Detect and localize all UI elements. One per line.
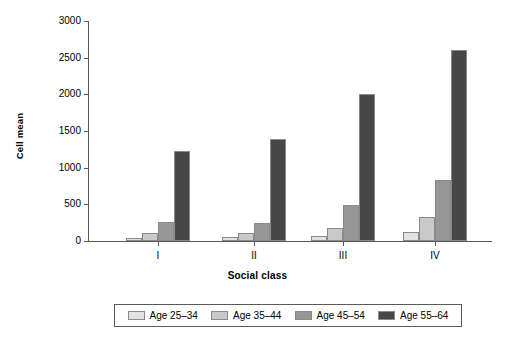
bar <box>403 232 419 241</box>
x-tick-label: II <box>234 250 274 261</box>
y-tick-label: 3000 <box>41 16 81 26</box>
legend-swatch <box>211 311 228 320</box>
bar <box>419 217 435 241</box>
legend-entry: Age 35–44 <box>211 311 281 321</box>
legend-label: Age 35–44 <box>233 311 281 321</box>
x-tick-mark <box>254 242 255 246</box>
bar <box>343 205 359 241</box>
y-tick-label: 0 <box>41 236 81 246</box>
legend-swatch <box>295 311 312 320</box>
bar <box>174 151 190 241</box>
bar <box>158 222 174 241</box>
bar <box>238 233 254 241</box>
legend-swatch <box>378 311 395 320</box>
legend-label: Age 45–54 <box>317 311 365 321</box>
bar-group <box>403 21 467 241</box>
legend-entry: Age 55–64 <box>378 311 448 321</box>
legend-label: Age 55–64 <box>400 311 448 321</box>
x-tick-label: III <box>323 250 363 261</box>
y-tick-label: 2500 <box>41 53 81 63</box>
bar <box>451 50 467 241</box>
bar-group <box>126 21 190 241</box>
y-tick-label: 1500 <box>41 126 81 136</box>
bar <box>435 180 451 241</box>
bar-chart: Cell mean 050010001500200025003000 IIIII… <box>0 0 515 339</box>
x-tick-label: IV <box>415 250 455 261</box>
bar <box>254 223 270 241</box>
x-tick-label: I <box>138 250 178 261</box>
bar-group <box>222 21 286 241</box>
bar <box>270 139 286 241</box>
legend-swatch <box>128 311 145 320</box>
bar <box>126 238 142 241</box>
y-axis-title: Cell mean <box>14 96 25 176</box>
bar <box>222 237 238 241</box>
bar <box>142 233 158 241</box>
x-tick-mark <box>158 242 159 246</box>
x-tick-mark <box>343 242 344 246</box>
legend: Age 25–34Age 35–44Age 45–54Age 55–64 <box>114 304 462 327</box>
bar <box>311 236 327 241</box>
y-tick-label: 500 <box>41 199 81 209</box>
x-tick-mark <box>435 242 436 246</box>
x-axis-title: Social class <box>0 270 515 281</box>
legend-entry: Age 25–34 <box>128 311 198 321</box>
plot-area <box>89 21 492 241</box>
bar-group <box>311 21 375 241</box>
legend-entry: Age 45–54 <box>295 311 365 321</box>
y-tick-label: 2000 <box>41 89 81 99</box>
x-axis-line <box>88 241 492 242</box>
bar <box>359 94 375 241</box>
y-tick-label: 1000 <box>41 163 81 173</box>
bar <box>327 228 343 241</box>
legend-label: Age 25–34 <box>150 311 198 321</box>
